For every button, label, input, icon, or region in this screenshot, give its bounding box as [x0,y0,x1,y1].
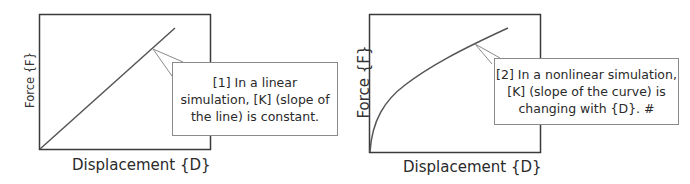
left-callout: [1] In a linear simulation, [K] (slope o… [172,62,338,136]
right-callout: [2] In a nonlinear simulation, [K] (slop… [494,58,679,125]
left-x-axis-label: Displacement {D} [72,156,211,174]
right-x-axis-label: Displacement {D} [403,158,542,176]
right-callout-line-2: [K] (slope of the curve) is [496,83,677,100]
right-y-axis-label: Force {F} [355,32,373,132]
right-nonlinear-curve [370,28,508,152]
left-callout-line-3: the line) is constant. [180,108,329,125]
left-callout-line-2: simulation, [K] (slope of [180,91,329,108]
right-callout-line-1: [2] In a nonlinear simulation, [496,66,677,83]
left-y-axis-label: Force {F} [23,40,37,120]
left-linear-line [40,28,175,149]
right-callout-line-3: changing with {D}. # [496,100,677,117]
left-callout-line-1: [1] In a linear [180,74,329,91]
